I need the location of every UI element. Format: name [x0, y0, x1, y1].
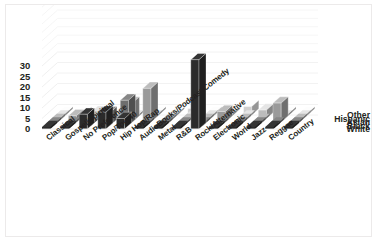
y-axis-tick: 30	[10, 61, 30, 71]
y-axis-tick: 20	[10, 82, 30, 92]
bars-group	[42, 53, 315, 129]
series-label: White	[347, 125, 370, 134]
chart-frame: 302520151050ClassicalGospel/SpiritualNo …	[5, 4, 372, 237]
y-axis-tick: 0	[10, 124, 30, 134]
y-axis-tick: 15	[10, 93, 30, 103]
y-axis-tick: 10	[10, 103, 30, 113]
left-wall-rails	[42, 5, 58, 129]
chart-plot-area: 302520151050ClassicalGospel/SpiritualNo …	[6, 5, 373, 238]
y-axis-tick: 25	[10, 72, 30, 82]
y-axis-tick: 5	[10, 114, 30, 124]
